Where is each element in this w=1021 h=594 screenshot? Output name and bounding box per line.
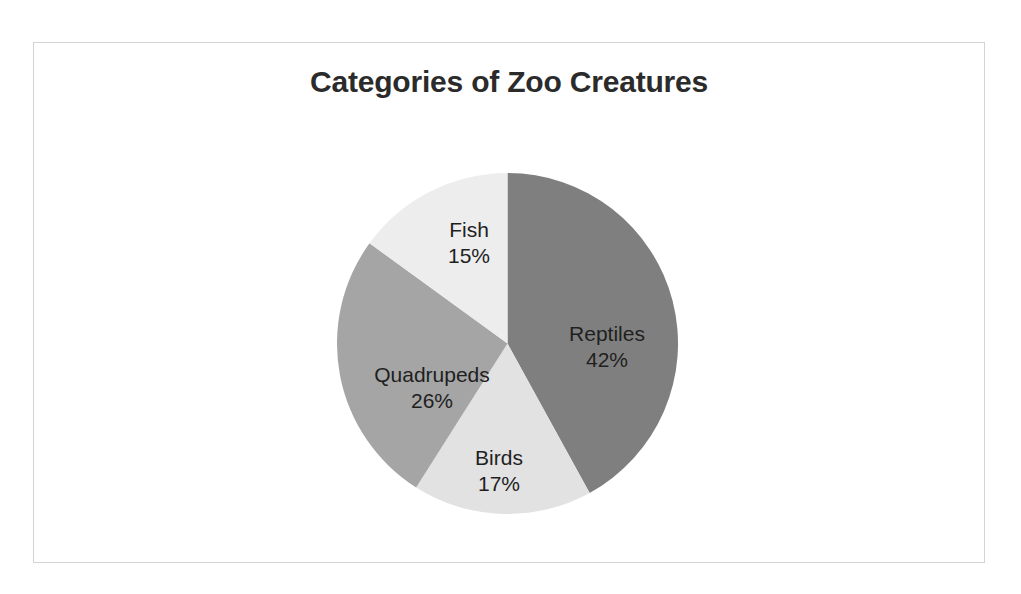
chart-area: Categories of Zoo Creatures Reptiles 42%… xyxy=(33,42,985,563)
chart-title: Categories of Zoo Creatures xyxy=(34,65,984,99)
pie-slices xyxy=(337,173,678,514)
pie-svg xyxy=(337,173,678,514)
pie-chart: Reptiles 42% Birds 17% Quadrupeds 26% Fi… xyxy=(337,173,678,514)
